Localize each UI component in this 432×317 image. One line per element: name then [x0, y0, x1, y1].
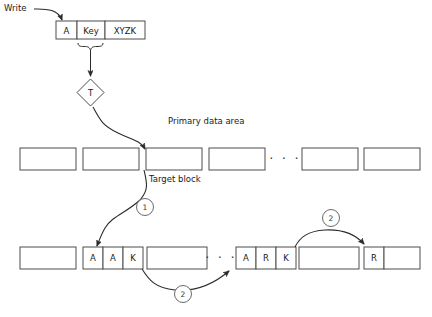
step-marker-2-upper-label: 2 [329, 214, 334, 223]
step-marker-1-label: 1 [143, 203, 148, 212]
transform-node: T [77, 79, 104, 106]
primary-block-5 [364, 148, 420, 170]
step-marker-2-lower: 2 [175, 286, 192, 303]
diagram-canvas: Write A Key XYZK T Primary data area [0, 0, 432, 317]
overflow-group-a-cell-0-label: A [90, 253, 96, 263]
primary-block-4 [302, 148, 358, 170]
overflow-group-b-cell-1-label: R [263, 253, 269, 263]
input-record-cell-2-label: XYZK [114, 26, 137, 36]
write-arrow [34, 9, 62, 20]
primary-block-0 [20, 148, 76, 170]
overflow-row-ellipsis: · · · [205, 250, 237, 265]
overflow-chain-arrow-upper [295, 230, 364, 247]
overflow-group-b: A R K [236, 247, 296, 269]
target-block-label: Target block [148, 174, 201, 184]
overflow-group-b-cell-2-label: K [283, 253, 289, 263]
input-record-cell-0-label: A [64, 26, 70, 36]
overflow-block-0 [20, 247, 76, 269]
overflow-block-3 [384, 247, 420, 269]
input-record: A Key XYZK [56, 21, 145, 39]
primary-block-3 [209, 148, 265, 170]
primary-block-2 [146, 148, 202, 170]
hashing-overflow-diagram: Write A Key XYZK T Primary data area [0, 0, 432, 317]
key-brace [78, 43, 103, 51]
overflow-group-c: R [364, 247, 384, 269]
overflow-group-b-cell-0-label: A [243, 253, 249, 263]
overflow-row: A A K · · · A R K R [20, 247, 420, 269]
overflow-group-a-cell-1-label: A [110, 253, 116, 263]
input-record-cell-1-label: Key [83, 26, 98, 36]
transform-to-target-arrow [93, 107, 145, 149]
transform-label: T [87, 88, 94, 98]
write-label: Write [4, 3, 26, 13]
primary-block-1 [83, 148, 139, 170]
overflow-block-2 [299, 247, 359, 269]
overflow-group-a-cell-2-label: K [130, 253, 136, 263]
overflow-group-a: A A K [83, 247, 143, 269]
step-marker-2-lower-label: 2 [181, 290, 186, 299]
overflow-block-1 [147, 247, 207, 269]
primary-data-area-row: · · · [20, 148, 420, 170]
step-marker-1: 1 [137, 199, 154, 216]
overflow-group-c-cell-0-label: R [371, 253, 377, 263]
step-marker-2-upper: 2 [323, 210, 340, 227]
primary-row-ellipsis: · · · [269, 151, 301, 166]
primary-data-area-label: Primary data area [168, 116, 244, 126]
